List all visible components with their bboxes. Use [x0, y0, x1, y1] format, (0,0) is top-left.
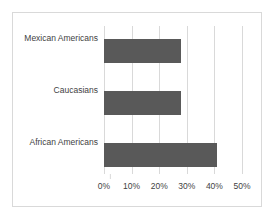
- bar-row: [104, 39, 242, 63]
- category-label: Caucasians: [18, 78, 104, 102]
- bar-row: [104, 143, 242, 167]
- x-tick-label: 50%: [233, 181, 250, 191]
- gridline-50: [242, 26, 243, 174]
- bar-african-americans: [104, 143, 217, 167]
- chart-figure: Mexican Americans Caucasians African Ame…: [12, 12, 262, 207]
- category-axis-labels: Mexican Americans Caucasians African Ame…: [13, 26, 104, 174]
- category-label: African Americans: [18, 130, 104, 154]
- x-tick-label: 10%: [123, 181, 140, 191]
- plot-area: [104, 26, 242, 174]
- tickmark: [110, 174, 111, 179]
- x-tick-label: 40%: [206, 181, 223, 191]
- x-tick-label: 20%: [151, 181, 168, 191]
- bar-row: [104, 91, 242, 115]
- x-tick-label: 30%: [178, 181, 195, 191]
- x-axis-tick-labels: 0% 10% 20% 30% 40% 50%: [104, 181, 242, 197]
- category-label: Mexican Americans: [18, 26, 104, 50]
- bar-mexican-americans: [104, 39, 181, 63]
- x-tick-label: 0%: [98, 181, 110, 191]
- bar-caucasians: [104, 91, 181, 115]
